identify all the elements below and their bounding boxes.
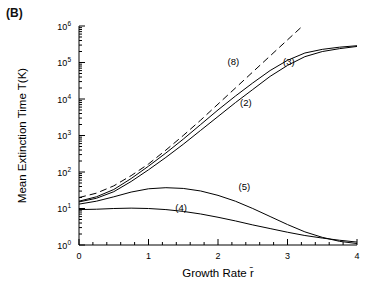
x-axis-title: Growth Rate r̄	[182, 267, 254, 279]
y-tick-label: 103	[57, 129, 71, 141]
curve-label-2: (2)	[240, 97, 252, 108]
axis-frame	[79, 26, 357, 245]
curve-3	[79, 46, 357, 201]
chart-figure: 10010110210310410510601234Growth Rate r̄…	[0, 0, 379, 292]
curve-label-3: (3)	[283, 56, 295, 67]
curve-label-5: (5)	[239, 181, 251, 192]
curve-8	[79, 27, 301, 197]
curve-label-8: (8)	[227, 56, 239, 67]
x-tick-label: 4	[354, 251, 359, 261]
curve-4	[79, 208, 357, 242]
x-tick-label: 2	[215, 251, 220, 261]
curve-label-4: (4)	[175, 202, 187, 213]
curve-5	[79, 188, 357, 244]
x-tick-label: 3	[285, 251, 290, 261]
y-tick-label: 106	[57, 20, 71, 32]
y-tick-label: 100	[57, 239, 71, 251]
chart-canvas: 10010110210310410510601234Growth Rate r̄…	[0, 0, 379, 292]
y-tick-label: 101	[57, 202, 71, 214]
curve-2	[79, 46, 357, 201]
y-tick-label: 105	[57, 56, 71, 68]
x-tick-label: 1	[146, 251, 151, 261]
y-tick-label: 102	[57, 166, 71, 178]
y-axis-title: Mean Extinction Time T(K)	[16, 68, 28, 203]
x-tick-label: 0	[76, 251, 81, 261]
y-tick-label: 104	[57, 93, 71, 105]
